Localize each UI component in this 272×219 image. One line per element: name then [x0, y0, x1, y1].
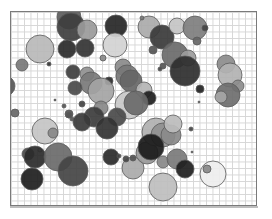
circle-15	[202, 25, 208, 31]
frame-shadow	[10, 206, 258, 208]
circle-55	[48, 128, 58, 138]
circle-73	[164, 115, 182, 133]
circle-47	[54, 99, 56, 101]
circle-52	[11, 109, 19, 117]
grid-plot-area	[10, 11, 257, 206]
circle-18	[149, 46, 157, 54]
circle-2	[77, 20, 97, 40]
circle-36	[88, 78, 114, 104]
circle-63	[73, 113, 91, 131]
circle-21	[170, 56, 200, 86]
circle-8	[16, 59, 28, 71]
circle-82	[191, 151, 193, 153]
circle-60	[58, 156, 88, 186]
circle-43	[124, 91, 148, 115]
circle-81	[189, 127, 193, 131]
circle-74	[138, 134, 164, 160]
circle-78	[149, 173, 177, 201]
circle-6	[103, 33, 127, 57]
circle-50	[79, 101, 85, 107]
circle-9	[47, 62, 51, 66]
circle-13	[169, 18, 185, 34]
circle-61	[21, 168, 43, 190]
circle-17	[140, 16, 144, 20]
circle-7	[26, 35, 54, 63]
circle-28	[215, 91, 227, 103]
circle-51	[11, 76, 15, 96]
circle-58	[24, 146, 46, 168]
circle-77	[176, 160, 194, 178]
circle-79	[200, 161, 226, 187]
circle-23	[158, 67, 162, 71]
circle-31	[66, 65, 80, 79]
circles-layer	[11, 12, 257, 206]
circle-16	[193, 37, 201, 45]
circle-29	[196, 85, 204, 93]
circle-65	[103, 149, 119, 165]
circle-30	[198, 101, 200, 103]
circle-3	[58, 40, 76, 58]
circle-35	[68, 81, 82, 95]
circle-68	[130, 155, 136, 161]
circle-66	[117, 154, 121, 158]
circle-48	[62, 104, 66, 108]
circle-83	[123, 156, 129, 162]
circle-64	[96, 117, 118, 139]
circle-80	[203, 165, 211, 173]
circle-4	[76, 39, 94, 57]
circle-10	[100, 55, 106, 61]
